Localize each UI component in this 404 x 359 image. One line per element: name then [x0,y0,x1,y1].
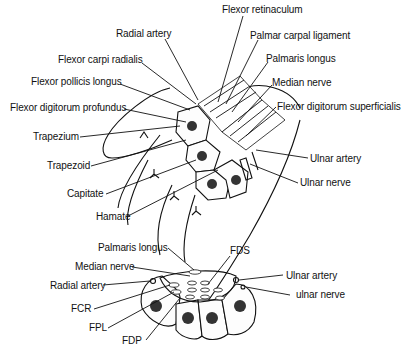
label-trapezoid: Trapezoid [47,160,90,172]
label-fdp: FDP [122,335,142,347]
label-ulnar-artery: Ulnar artery [310,153,361,165]
label-flexor-digitorum-profundus: Flexor digitorum profundus [10,102,126,114]
label-fcr: FCR [71,303,91,315]
label-ulnar-artery-section: Ulnar artery [286,270,337,282]
label-flexor-pollicis-longus: Flexor pollicis longus [31,76,122,88]
label-capitate: Capitate [67,188,103,200]
cross-section [141,270,256,340]
label-flexor-carpi-radialis: Flexor carpi radialis [58,54,143,66]
label-radial-artery-section: Radial artery [50,280,105,292]
label-fds: FDS [230,245,250,257]
label-palmar-carpal-ligament: Palmar carpal ligament [250,30,350,42]
label-flexor-digitorum-superficialis: Flexor digitorum superficialis [277,101,401,113]
carpal-tunnel-anatomy-figure: Flexor retinaculum Radial artery Palmar … [0,0,404,359]
label-median-nerve-section: Median nerve [75,261,134,273]
label-fpl: FPL [89,322,107,334]
label-palmaris-longus-section: Palmaris longus [98,242,168,254]
label-hamate: Hamate [96,211,130,223]
label-radial-artery: Radial artery [116,28,171,40]
label-median-nerve: Median nerve [272,77,331,89]
label-palmaris-longus: Palmaris longus [266,53,336,65]
label-trapezium: Trapezium [33,131,79,143]
label-ulnar-nerve-section: ulnar nerve [296,289,345,301]
label-flexor-retinaculum: Flexor retinaculum [222,4,302,16]
label-ulnar-nerve: Ulnar nerve [300,177,351,189]
